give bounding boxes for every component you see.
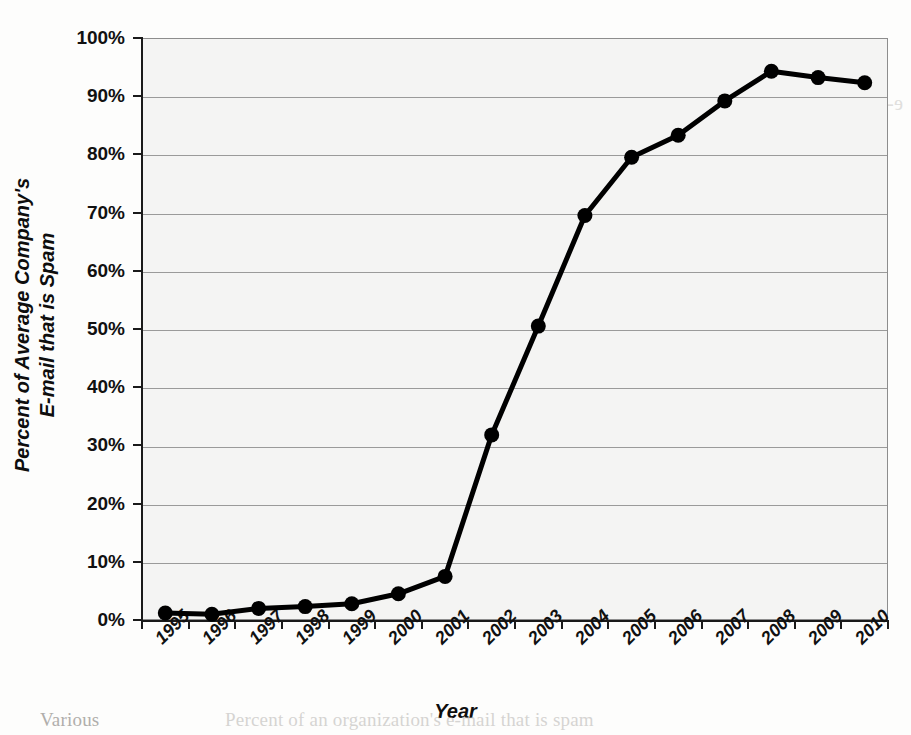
data-point-2004 [577,208,592,223]
data-series-layer [0,0,911,735]
series-line [165,71,864,614]
data-point-2007 [717,93,732,108]
data-point-2008 [764,64,779,79]
y-axis-title-line1: Percent of Average Company's [11,178,33,472]
data-point-1995 [158,606,173,621]
x-axis-title: Year [0,700,911,723]
y-axis-title-line2: E-mail that is Spam [36,233,58,418]
data-point-1997 [251,601,266,616]
data-point-2001 [438,569,453,584]
data-point-2005 [624,150,639,165]
data-point-2009 [811,70,826,85]
data-point-1998 [298,599,313,614]
spam-percentage-line-chart: 0%10%20%30%40%50%60%70%80%90%100% 199519… [0,0,911,735]
data-point-1996 [204,607,219,622]
scanned-page: petite e-mail can be a very well perceiv… [0,0,911,735]
y-axis-title: Percent of Average Company's E-mail that… [10,90,60,560]
data-point-2010 [857,75,872,90]
data-point-1999 [344,596,359,611]
data-point-2006 [671,128,686,143]
data-point-2003 [531,319,546,334]
data-point-2002 [484,427,499,442]
data-point-2000 [391,586,406,601]
